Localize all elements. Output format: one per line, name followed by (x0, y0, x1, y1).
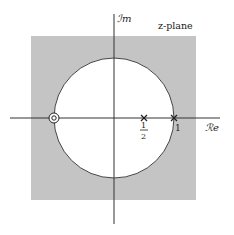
svg-text:2: 2 (141, 132, 146, 141)
svg-text:1: 1 (141, 121, 146, 130)
z-plane-diagram: ℐm z-plane ℛe 1 2 1 (0, 0, 234, 235)
pole-label-one: 1 (175, 123, 181, 133)
zero-marker (49, 113, 59, 123)
plane-title: z-plane (158, 20, 193, 31)
imaginary-axis-label: ℐm (117, 13, 131, 24)
real-axis-label: ℛe (205, 122, 219, 133)
